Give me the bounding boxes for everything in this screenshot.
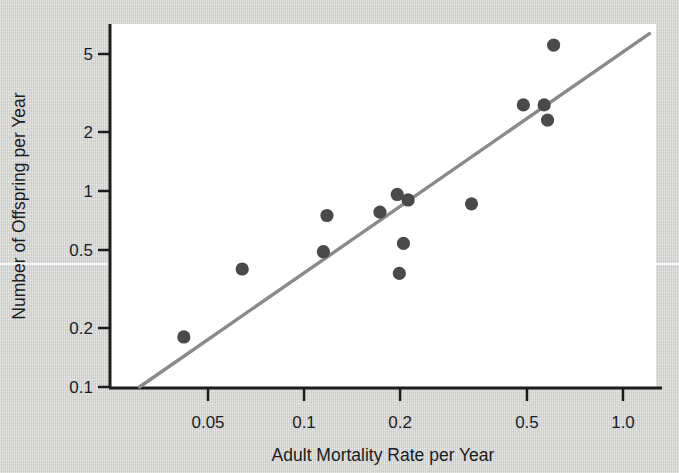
data-point: [177, 330, 190, 343]
x-tick-label: 1.0: [611, 413, 635, 432]
y-axis-tick-labels: 0.10.20.5125: [69, 45, 93, 397]
plot-area-background: [110, 24, 656, 388]
x-tick-label: 0.2: [388, 413, 412, 432]
x-axis-ticks: [208, 388, 623, 401]
data-point: [236, 262, 249, 275]
y-tick-label: 1: [84, 182, 93, 201]
chart-svg: 0.10.20.5125 0.050.10.20.51.0 Adult Mort…: [0, 0, 679, 473]
data-point: [547, 39, 560, 52]
x-axis-title: Adult Mortality Rate per Year: [272, 445, 495, 465]
data-point: [465, 197, 478, 210]
data-point: [541, 113, 554, 126]
y-tick-label: 0.2: [69, 319, 93, 338]
x-axis-tick-labels: 0.050.10.20.51.0: [191, 413, 634, 432]
y-tick-label: 2: [84, 123, 93, 142]
scatter-plot-figure: 0.10.20.5125 0.050.10.20.51.0 Adult Mort…: [0, 0, 679, 473]
x-tick-label: 0.1: [292, 413, 316, 432]
x-tick-label: 0.05: [191, 413, 224, 432]
data-point: [320, 209, 333, 222]
y-tick-label: 5: [84, 45, 93, 64]
data-point: [317, 245, 330, 258]
data-point: [373, 206, 386, 219]
data-point: [397, 237, 410, 250]
y-tick-label: 0.1: [69, 378, 93, 397]
data-point: [517, 98, 530, 111]
y-axis-title: Number of Offspring per Year: [9, 92, 29, 319]
x-tick-label: 0.5: [515, 413, 539, 432]
data-point: [538, 98, 551, 111]
y-axis-ticks: [98, 54, 110, 387]
data-point: [393, 267, 406, 280]
y-tick-label: 0.5: [69, 241, 93, 260]
data-point: [402, 193, 415, 206]
